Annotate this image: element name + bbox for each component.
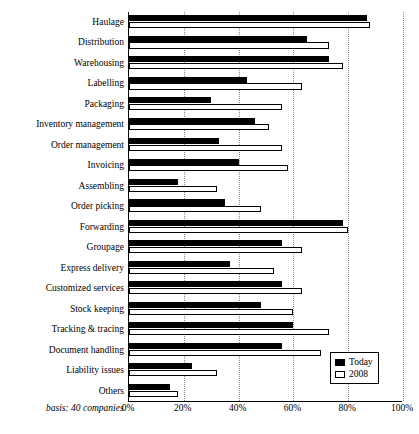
legend-label-2008: 2008: [349, 368, 368, 380]
x-tick-label: 60%: [284, 403, 301, 413]
bar-2008: [129, 309, 293, 315]
bar-today: [129, 384, 170, 390]
bar-today: [129, 159, 239, 165]
bar-2008: [129, 350, 321, 356]
gridline-100%: [403, 12, 404, 401]
bar-row: Stock keeping: [129, 299, 402, 319]
category-label: Document handling: [49, 340, 129, 360]
bar-today: [129, 240, 282, 246]
category-label: Haulage: [92, 12, 129, 32]
x-axis-tick-labels: 0%20%40%60%80%100%: [128, 403, 402, 417]
bar-row: Invoicing: [129, 155, 402, 175]
bar-row: Express delivery: [129, 258, 402, 278]
bar-today: [129, 220, 343, 226]
bar-today: [129, 118, 255, 124]
bar-today: [129, 77, 247, 83]
legend-item-2008: 2008: [335, 368, 373, 380]
bar-2008: [129, 329, 329, 335]
category-label: Assembling: [79, 176, 129, 196]
bar-row: Groupage: [129, 237, 402, 257]
category-label: Distribution: [78, 32, 129, 52]
x-tick-label: 20%: [174, 403, 191, 413]
bar-2008: [129, 186, 217, 192]
category-label: Express delivery: [60, 258, 129, 278]
bar-row: Tracking & tracing: [129, 319, 402, 339]
bar-2008: [129, 145, 282, 151]
bar-row: Packaging: [129, 94, 402, 114]
bar-row: Assembling: [129, 176, 402, 196]
bar-today: [129, 302, 261, 308]
bar-2008: [129, 83, 302, 89]
bar-today: [129, 322, 293, 328]
bar-2008: [129, 288, 302, 294]
bar-today: [129, 261, 230, 267]
bar-2008: [129, 268, 274, 274]
bar-2008: [129, 22, 370, 28]
category-label: Stock keeping: [70, 299, 129, 319]
bar-row: Order management: [129, 135, 402, 155]
bar-today: [129, 199, 225, 205]
chart-legend: Today 2008: [330, 352, 379, 384]
bar-today: [129, 36, 307, 42]
bar-chart: HaulageDistributionWarehousingLabellingP…: [0, 0, 419, 434]
category-label: Customized services: [46, 278, 129, 298]
category-label: Packaging: [84, 94, 129, 114]
bar-2008: [129, 247, 302, 253]
bar-row: Labelling: [129, 73, 402, 93]
bar-2008: [129, 63, 343, 69]
bar-2008: [129, 124, 269, 130]
bar-row: Inventory management: [129, 114, 402, 134]
x-tick-label: 40%: [229, 403, 246, 413]
plot-area: HaulageDistributionWarehousingLabellingP…: [128, 12, 402, 401]
bar-2008: [129, 370, 217, 376]
bar-today: [129, 97, 211, 103]
category-label: Inventory management: [36, 114, 129, 134]
bar-row: Haulage: [129, 12, 402, 32]
legend-swatch-today: [335, 359, 345, 366]
bar-today: [129, 363, 192, 369]
bar-row: Distribution: [129, 32, 402, 52]
category-label: Groupage: [87, 237, 129, 257]
category-label: Others: [99, 381, 129, 401]
category-label: Labelling: [88, 73, 129, 93]
bar-today: [129, 138, 219, 144]
category-label: Forwarding: [80, 217, 129, 237]
bar-row: Customized services: [129, 278, 402, 298]
bar-rows: HaulageDistributionWarehousingLabellingP…: [129, 12, 402, 401]
bar-today: [129, 179, 178, 185]
legend-item-today: Today: [335, 356, 373, 368]
bar-today: [129, 281, 282, 287]
bar-2008: [129, 227, 348, 233]
category-label: Order management: [51, 135, 129, 155]
bar-2008: [129, 165, 288, 171]
bar-row: Warehousing: [129, 53, 402, 73]
bar-today: [129, 56, 329, 62]
bar-row: Forwarding: [129, 217, 402, 237]
legend-label-today: Today: [349, 356, 373, 368]
bar-2008: [129, 206, 261, 212]
category-label: Warehousing: [74, 53, 129, 73]
x-axis-line: [128, 401, 402, 402]
category-label: Invoicing: [88, 155, 129, 175]
basis-annotation: basis: 40 companies: [46, 403, 124, 413]
x-tick-label: 80%: [338, 403, 355, 413]
bar-row: Order picking: [129, 196, 402, 216]
bar-2008: [129, 42, 329, 48]
category-label: Order picking: [71, 196, 129, 216]
x-tick-label: 100%: [391, 403, 413, 413]
bar-today: [129, 343, 282, 349]
legend-swatch-2008: [335, 371, 345, 378]
category-label: Liability issues: [66, 360, 129, 380]
bar-2008: [129, 104, 282, 110]
bar-today: [129, 15, 367, 21]
bar-2008: [129, 391, 178, 397]
category-label: Tracking & tracing: [52, 319, 129, 339]
